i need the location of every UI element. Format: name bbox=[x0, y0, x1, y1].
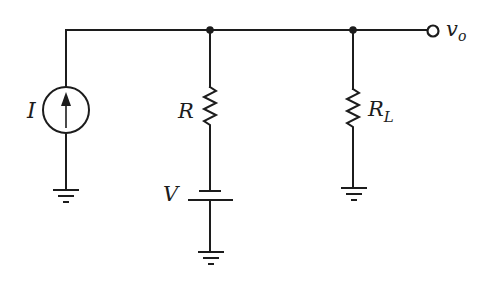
load-resistor bbox=[347, 30, 359, 188]
battery-icon bbox=[189, 191, 232, 252]
circuit-diagram: I R V bbox=[0, 0, 483, 282]
top-rail-wire bbox=[66, 30, 427, 86]
output-terminal bbox=[428, 26, 439, 37]
output-label: vo bbox=[446, 17, 466, 44]
ground-icon bbox=[342, 188, 366, 200]
resistor-r bbox=[204, 30, 216, 191]
battery-label: V bbox=[163, 182, 180, 206]
load-resistor-label: RL bbox=[367, 97, 394, 126]
current-source bbox=[43, 87, 89, 190]
resistor-r-label: R bbox=[177, 99, 194, 123]
current-source-label: I bbox=[26, 98, 37, 123]
ground-icon bbox=[199, 252, 223, 264]
ground-icon bbox=[54, 190, 78, 202]
current-arrow-up-icon bbox=[61, 92, 71, 106]
schematic: I R V bbox=[0, 0, 483, 282]
